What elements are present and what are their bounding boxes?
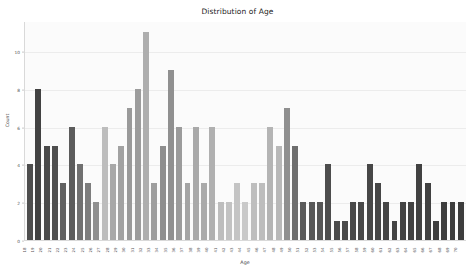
- bar-slot: [167, 22, 175, 240]
- bar-slot: [390, 22, 398, 240]
- bar-slot: [283, 22, 291, 240]
- bar-slot: [341, 22, 349, 240]
- bar-slot: [216, 22, 224, 240]
- bar-slot: [440, 22, 448, 240]
- bar-slot: [324, 22, 332, 240]
- bar: [69, 127, 75, 240]
- bar: [317, 202, 323, 240]
- x-tick-slot: 70: [456, 242, 464, 256]
- bar: [259, 183, 265, 240]
- bar: [392, 221, 398, 240]
- bar-series: [25, 22, 466, 240]
- bar: [226, 202, 232, 240]
- bar: [251, 183, 257, 240]
- bar-slot: [26, 22, 34, 240]
- bar: [267, 127, 273, 240]
- bar-slot: [208, 22, 216, 240]
- bar: [300, 202, 306, 240]
- bar-slot: [374, 22, 382, 240]
- plot-area: [24, 22, 466, 241]
- bar: [416, 164, 422, 240]
- x-axis-label: Age: [24, 260, 466, 265]
- bar-slot: [357, 22, 365, 240]
- bar: [309, 202, 315, 240]
- bar-slot: [59, 22, 67, 240]
- bar: [60, 183, 66, 240]
- bar-slot: [424, 22, 432, 240]
- bar-slot: [250, 22, 258, 240]
- bar-slot: [366, 22, 374, 240]
- bar: [218, 202, 224, 240]
- bar: [27, 164, 33, 240]
- bar-slot: [332, 22, 340, 240]
- bar: [433, 221, 439, 240]
- bar-slot: [225, 22, 233, 240]
- bar: [93, 202, 99, 240]
- bar: [383, 202, 389, 240]
- bar: [350, 202, 356, 240]
- bar-slot: [84, 22, 92, 240]
- bar-slot: [241, 22, 249, 240]
- y-tick-label: 2: [17, 201, 20, 206]
- bar: [52, 146, 58, 240]
- bar: [325, 164, 331, 240]
- bar: [441, 202, 447, 240]
- bar: [151, 183, 157, 240]
- bar-slot: [382, 22, 390, 240]
- bar: [292, 146, 298, 240]
- bar-slot: [448, 22, 456, 240]
- bar-slot: [274, 22, 282, 240]
- bar: [77, 164, 83, 240]
- bar: [375, 183, 381, 240]
- chart-title: Distribution of Age: [0, 7, 475, 16]
- bar: [176, 127, 182, 240]
- bar-slot: [134, 22, 142, 240]
- bar: [185, 183, 191, 240]
- bar: [450, 202, 456, 240]
- bar-slot: [192, 22, 200, 240]
- bar-slot: [117, 22, 125, 240]
- bar: [193, 127, 199, 240]
- bar-slot: [109, 22, 117, 240]
- bar-slot: [125, 22, 133, 240]
- bar-slot: [142, 22, 150, 240]
- bar-slot: [299, 22, 307, 240]
- bar-slot: [67, 22, 75, 240]
- bar-slot: [92, 22, 100, 240]
- bar: [425, 183, 431, 240]
- bar-slot: [101, 22, 109, 240]
- bar-slot: [316, 22, 324, 240]
- y-tick-label: 4: [17, 163, 20, 168]
- bar: [342, 221, 348, 240]
- bar: [118, 146, 124, 240]
- bar-slot: [291, 22, 299, 240]
- bar: [276, 146, 282, 240]
- bar: [458, 202, 464, 240]
- bar-slot: [399, 22, 407, 240]
- bar-slot: [432, 22, 440, 240]
- bar-slot: [415, 22, 423, 240]
- bar: [400, 202, 406, 240]
- bar: [284, 108, 290, 240]
- bar-slot: [349, 22, 357, 240]
- bar-slot: [407, 22, 415, 240]
- bar: [408, 202, 414, 240]
- bar-slot: [51, 22, 59, 240]
- bar: [160, 146, 166, 240]
- y-axis-label: Count: [5, 101, 10, 141]
- bar-slot: [175, 22, 183, 240]
- bar: [110, 164, 116, 240]
- chart-figure: Distribution of Age 0246810 Count 181920…: [0, 0, 475, 274]
- bar: [334, 221, 340, 240]
- bar: [102, 127, 108, 240]
- bar-slot: [266, 22, 274, 240]
- bar-slot: [183, 22, 191, 240]
- bar: [367, 164, 373, 240]
- bar: [85, 183, 91, 240]
- y-tick-label: 6: [17, 125, 20, 130]
- bar: [234, 183, 240, 240]
- bar: [135, 89, 141, 240]
- bar: [201, 183, 207, 240]
- x-axis-ticks: 1819202122232425262728293031323334353637…: [24, 242, 466, 256]
- bar-slot: [34, 22, 42, 240]
